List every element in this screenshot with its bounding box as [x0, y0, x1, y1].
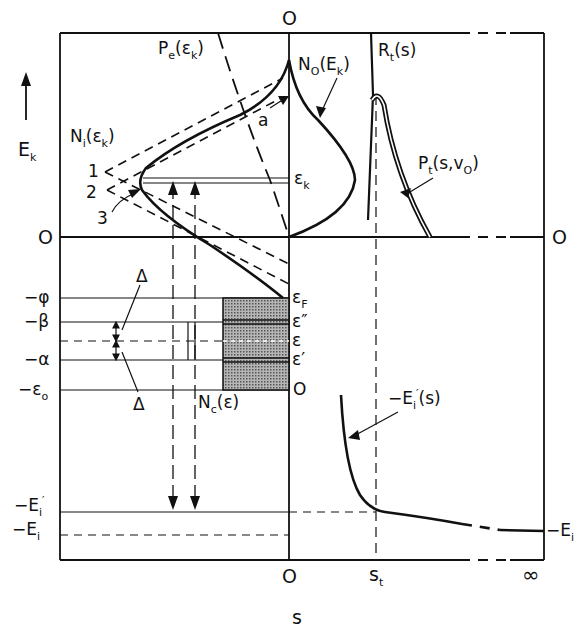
- s-axis-label: s: [292, 608, 302, 627]
- band-eps-label: ε: [292, 332, 301, 349]
- a-label: a: [258, 112, 268, 129]
- band-eps-f-label: εF: [292, 289, 308, 306]
- pt-label: Pt(s,vO): [418, 155, 479, 172]
- branch-2-label: 2: [86, 184, 97, 201]
- eps-k-label: εk: [294, 170, 310, 187]
- left-zero-label: O: [38, 228, 53, 247]
- bottom-tick-st: st: [369, 565, 383, 584]
- ni-branches: [105, 78, 289, 284]
- rt-label: Rt(s): [378, 42, 416, 59]
- band-eps-dprime-label: ε″: [292, 313, 308, 330]
- no-label: NO(Ek): [298, 56, 350, 73]
- ek-axis-arrow: [21, 72, 31, 120]
- delta-arrows: [113, 285, 140, 392]
- level-ei-prime-label: −Ei′: [14, 497, 45, 514]
- delta-bottom-label: Δ: [133, 396, 145, 413]
- right-zero-label: O: [552, 228, 567, 247]
- level-beta-label: −β: [24, 313, 49, 330]
- level-phi-label: −φ: [24, 289, 49, 306]
- delta-top-label: Δ: [136, 268, 148, 285]
- conduction-band: [223, 298, 289, 390]
- branch-3-label: 3: [97, 210, 108, 227]
- ek-axis-label: Ek: [18, 140, 36, 159]
- band-zero-label: O: [293, 381, 306, 398]
- ei-prime-curve: [341, 395, 462, 524]
- ei-prime-s-label: −Ei′(s): [388, 390, 441, 407]
- level-ei-label: −Ei: [12, 521, 40, 538]
- bottom-tick-infinity: ∞: [522, 565, 540, 586]
- top-zero-label: O: [282, 9, 297, 28]
- ni-curve: [140, 60, 289, 298]
- level-eps0-label: −εo: [18, 381, 48, 398]
- pe-curve: [218, 33, 289, 237]
- rt-curve: [368, 33, 373, 220]
- no-curve: [289, 60, 355, 237]
- bottom-tick-zero: O: [282, 567, 297, 586]
- band-eps-prime-label: ε′: [292, 351, 305, 368]
- ni-label: Ni(εk): [70, 128, 115, 145]
- energy-levels: [60, 178, 376, 535]
- nc-label: Nc(ε): [198, 394, 239, 411]
- right-ei-label: −Ei: [546, 522, 574, 539]
- pe-label: Pe(εk): [158, 40, 204, 57]
- level-alpha-label: −α: [24, 351, 49, 368]
- branch-1-label: 1: [88, 163, 99, 180]
